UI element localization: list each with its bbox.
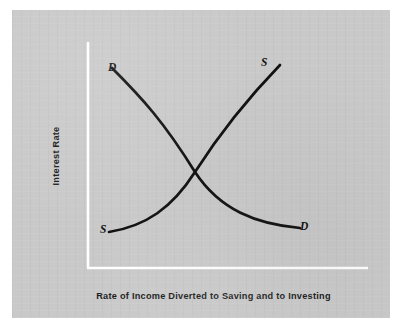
chart-plot-area [12, 10, 390, 318]
supply-curve-label-bottom: S [100, 224, 106, 236]
y-axis-title-wrap: Interest Rate [45, 110, 67, 202]
demand-curve-label-top: D [108, 62, 116, 74]
demand-curve [112, 68, 300, 228]
x-axis-title: Rate of Income Diverted to Saving and to… [12, 291, 390, 301]
demand-curve-label-bottom: D [300, 221, 308, 233]
figure-root: D S S D Interest Rate Rate of Income Div… [0, 0, 403, 332]
y-axis-title: Interest Rate [51, 127, 61, 186]
supply-curve-label-top: S [261, 57, 267, 69]
chart-plate: D S S D Interest Rate Rate of Income Div… [12, 10, 390, 318]
